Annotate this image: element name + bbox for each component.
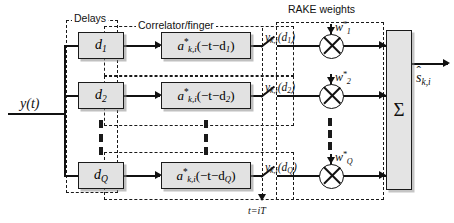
input-wire bbox=[8, 113, 66, 115]
input-signal-label: y(t) bbox=[20, 96, 39, 112]
delay-box-1-label: d1 bbox=[95, 37, 107, 54]
weight-1-arrow bbox=[327, 27, 335, 34]
branch-q-output-label: yk,i(dQ) bbox=[265, 161, 297, 175]
rake-receiver-diagram: Delays Correlator/finger RAKE weights y(… bbox=[0, 0, 454, 223]
branch-2-sampled-wire bbox=[277, 95, 320, 97]
delay-box-2[interactable]: d2 bbox=[78, 82, 124, 109]
delay-box-1[interactable]: d1 bbox=[78, 32, 124, 59]
multiplier-1-to-summer-arrow bbox=[379, 41, 386, 49]
multiplier-2-to-summer-arrow bbox=[379, 91, 386, 99]
correlator-box-2[interactable]: a*k,i(−t−d2) bbox=[161, 82, 251, 109]
branch-1-output-label: yk,i(d1) bbox=[265, 31, 295, 45]
sampling-clock-line bbox=[262, 28, 263, 196]
branch-q-sampled-wire bbox=[277, 175, 320, 177]
rake-weights-label: RAKE weights bbox=[286, 3, 357, 15]
weight-q-label: w*Q bbox=[335, 149, 353, 166]
multiplier-q-to-summer-arrow bbox=[379, 171, 386, 179]
sampling-time-label: t=iT bbox=[248, 205, 266, 216]
correlator-label: Correlator/finger bbox=[136, 19, 216, 31]
weight-1-label: w*1 bbox=[335, 19, 351, 36]
weight-2-label: w*2 bbox=[335, 69, 351, 86]
multiplier-q[interactable] bbox=[319, 164, 344, 189]
input-bus-vertical bbox=[64, 45, 66, 175]
multiplier-2[interactable] bbox=[319, 84, 344, 109]
output-signal-label: ̂sk,i bbox=[416, 70, 431, 87]
correlator-box-q-label: a*k,i(−t−dQ) bbox=[176, 167, 235, 184]
branch-2-output-label: yk,i(d2) bbox=[265, 81, 295, 95]
correlator-box-1[interactable]: a*k,i(−t−d1) bbox=[161, 32, 251, 59]
weight-q-arrow bbox=[327, 157, 335, 164]
delay-box-q-label: dQ bbox=[94, 167, 108, 184]
correlator-box-1-label: a*k,i(−t−d1) bbox=[177, 37, 234, 54]
weights-ellipsis bbox=[328, 118, 332, 150]
delays-label: Delays bbox=[72, 12, 108, 24]
weight-2-arrow bbox=[327, 77, 335, 84]
delay-box-q[interactable]: dQ bbox=[78, 162, 124, 189]
summation-box[interactable]: Σ bbox=[386, 30, 412, 190]
sampling-clock-arrow bbox=[258, 194, 266, 201]
delays-ellipsis bbox=[99, 120, 103, 155]
branch-1-sampled-wire bbox=[277, 45, 320, 47]
correlator-box-2-label: a*k,i(−t−d2) bbox=[177, 87, 234, 104]
correlator-box-q[interactable]: a*k,i(−t−dQ) bbox=[161, 162, 251, 189]
delay-box-2-label: d2 bbox=[95, 87, 107, 104]
summation-symbol: Σ bbox=[393, 99, 404, 121]
multiplier-1[interactable] bbox=[319, 34, 344, 59]
output-arrow bbox=[443, 59, 450, 67]
correlator-ellipsis bbox=[204, 120, 208, 155]
